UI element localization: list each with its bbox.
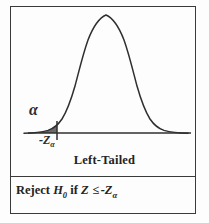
- critical-value-label: -Zα: [39, 134, 55, 149]
- critical-value-prefix: -Z: [39, 133, 50, 147]
- normal-curve: [24, 15, 188, 133]
- section-divider: [10, 176, 196, 177]
- null-hypothesis-symbol: H: [53, 183, 63, 197]
- threshold-symbol: -Z: [101, 183, 113, 197]
- threshold-subscript: α: [112, 190, 117, 200]
- test-statistic-symbol: Z: [81, 183, 89, 197]
- if-word: if: [70, 183, 78, 197]
- comparison-operator: ≤: [92, 183, 101, 197]
- left-tailed-test-figure: α -Zα Left-Tailed Reject H0 if Z ≤-Zα: [0, 0, 209, 223]
- critical-value-subscript: α: [50, 140, 54, 149]
- test-type-caption: Left-Tailed: [0, 153, 209, 168]
- decision-rule-text: Reject H0 if Z ≤-Zα: [16, 184, 117, 200]
- reject-word: Reject: [16, 183, 50, 197]
- normal-distribution-plot: [10, 6, 196, 176]
- null-hypothesis-subscript: 0: [63, 190, 67, 200]
- alpha-symbol-label: α: [29, 102, 38, 118]
